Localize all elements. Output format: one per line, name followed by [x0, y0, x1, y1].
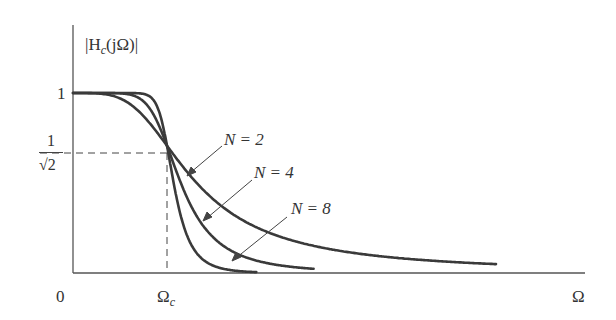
y-axis-label: |Hc(jΩ)| — [85, 36, 138, 56]
x-tick-cutoff: Ωc — [157, 288, 175, 308]
curve-n8 — [73, 93, 256, 272]
y-tick-half-power-numerator: 1 — [47, 133, 55, 149]
arrow-n2 — [190, 146, 222, 173]
annotation-n4: N = 4 — [254, 164, 294, 181]
x-tick-origin: 0 — [56, 288, 65, 305]
y-tick-one: 1 — [57, 85, 66, 102]
annotation-n2: N = 2 — [224, 131, 264, 148]
fraction-bar — [39, 152, 63, 153]
y-tick-half-power-denominator: √2 — [39, 157, 56, 173]
x-axis-label: Ω — [572, 288, 585, 305]
arrowhead-n8 — [232, 252, 241, 261]
arrowhead-n4 — [203, 212, 212, 221]
annotation-n8: N = 8 — [291, 200, 331, 217]
